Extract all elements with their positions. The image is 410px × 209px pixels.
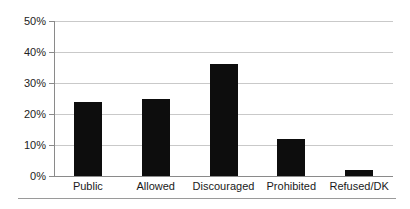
y-axis-tick-label: 10% [2,140,46,151]
y-axis-tick [49,176,54,177]
bar-chart: 0%10%20%30%40%50% PublicAllowedDiscourag… [0,0,410,209]
y-axis-tick-label: 40% [2,47,46,58]
y-axis-tick-label: 30% [2,78,46,89]
figure-bottom-rule [18,198,396,199]
y-axis-tick [49,21,54,22]
bar [74,102,102,176]
y-axis-tick-label: 0% [2,171,46,182]
axis-baseline [54,176,393,177]
x-axis-category-label: Refused/DK [329,179,388,193]
y-axis-tick [49,145,54,146]
y-axis-tick-label: 20% [2,109,46,120]
y-axis-labels: 0%10%20%30%40%50% [0,21,46,177]
bar [210,64,238,176]
y-axis-tick [49,114,54,115]
y-axis-tick-label: 50% [2,16,46,27]
bar [277,139,305,176]
x-axis-category-label: Allowed [136,179,175,193]
bar [345,170,373,176]
bar [142,99,170,177]
x-axis-labels: PublicAllowedDiscouragedProhibitedRefuse… [54,179,393,195]
y-axis-tick [49,52,54,53]
x-axis-category-label: Public [73,179,103,193]
bars-layer [54,21,393,176]
x-axis-category-label: Prohibited [267,179,317,193]
x-axis-category-label: Discouraged [193,179,255,193]
y-axis-tick [49,83,54,84]
